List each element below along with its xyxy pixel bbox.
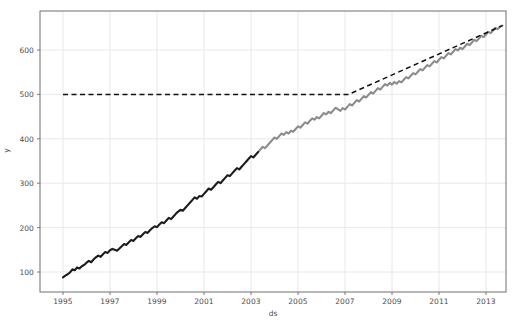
x-tick-label: 2001 [194,297,214,306]
x-tick-label: 1997 [100,297,120,306]
x-tick-label: 2007 [335,297,355,306]
y-axis-label: y [2,148,11,152]
chart-figure: 1002003004005006001995199719992001200320… [0,0,523,326]
y-tick-label: 100 [19,268,34,277]
plot-canvas [0,0,523,326]
observed-line-early [63,152,258,277]
tick-marks [37,50,486,295]
y-tick-label: 500 [19,90,34,99]
x-axis-label: ds [269,309,278,318]
x-tick-label: 2013 [476,297,496,306]
y-tick-label: 200 [19,223,34,232]
series-line-trend [63,26,502,95]
x-tick-label: 2003 [241,297,261,306]
trend-dashed-line [63,26,502,95]
y-tick-label: 400 [19,134,34,143]
y-tick-label: 600 [19,46,34,55]
series-line-observed [63,26,502,278]
x-tick-label: 2011 [429,297,449,306]
y-tick-label: 300 [19,179,34,188]
x-tick-label: 1995 [53,297,73,306]
observed-line-late [258,26,502,153]
x-tick-label: 2009 [382,297,402,306]
x-tick-label: 2005 [288,297,308,306]
x-tick-label: 1999 [147,297,167,306]
